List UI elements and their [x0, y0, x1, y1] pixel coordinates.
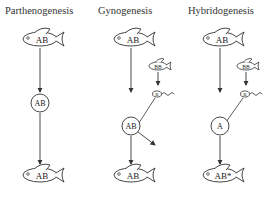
mother-genotype-label: AB — [127, 35, 140, 45]
offspring-genotype-label: AB — [36, 171, 49, 181]
egg-genotype-label: AB — [125, 122, 136, 131]
egg-genotype-label: AB — [34, 99, 45, 108]
egg-genotype-label: A — [217, 122, 223, 131]
sperm-contact-line — [226, 98, 243, 122]
offspring-genotype-label: AB — [127, 171, 140, 181]
gynogenesis-column — [114, 28, 174, 182]
offspring-genotype-label: AB* — [214, 171, 232, 181]
reproduction-modes-diagram: AB AB AB AB BB B AB AB AB BB B A AB* — [0, 0, 271, 198]
mother-genotype-label: AB — [36, 35, 49, 45]
father-genotype-label: BB — [154, 64, 162, 70]
hybridogenesis-column — [203, 28, 262, 182]
sperm-exit-arrow — [138, 132, 155, 145]
mother-genotype-label: AB — [216, 35, 229, 45]
sperm-contact-line — [137, 98, 155, 126]
father-genotype-label: BB — [242, 64, 250, 70]
